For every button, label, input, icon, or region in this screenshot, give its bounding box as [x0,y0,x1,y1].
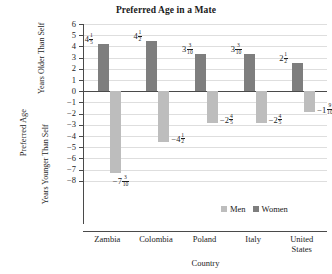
bar-value-label-women: 412 [133,30,141,42]
y-axis-tick [79,114,83,115]
x-axis-category-label: UnitedStates [277,234,326,254]
legend-label: Women [262,204,288,214]
y-axis-tick-label: 2 [52,64,76,73]
bar-value-label-women: 3310 [182,43,193,55]
bar-women [195,54,206,91]
y-axis-tick [79,158,83,159]
fraction-denominator: 2 [138,37,142,43]
bar-value-label-women: 3310 [231,43,242,55]
gridline [84,35,327,36]
y-axis-tick [79,69,83,70]
bar-value-label-men: −245 [220,114,233,126]
value-fraction: 15 [89,33,93,45]
bar-value-label-men: −245 [269,114,282,126]
bar-value-label-men: −1910 [317,103,332,115]
y-axis-tick-label: −7 [52,165,76,174]
chart-legend: MenWomen [221,204,288,214]
y-axis-tick [79,181,83,182]
legend-swatch [221,206,227,212]
y-axis-tick-label: −2 [52,109,76,118]
x-axis-category-label: Colombia [132,234,181,244]
chart-container: Preferred Age in a Mate Preferred Age Ye… [0,0,332,274]
y-axis-tick-label: 1 [52,76,76,85]
y-axis-tick-label: 5 [52,31,76,40]
y-axis-tick [79,80,83,81]
y-axis-tick-label: −3 [52,120,76,129]
bar-men [304,91,315,112]
chart-title: Preferred Age in a Mate [0,5,332,15]
fraction-denominator: 2 [284,59,288,65]
value-fraction: 45 [278,114,282,126]
bar-men [110,91,121,173]
y-axis-tick [79,91,83,92]
fraction-denominator: 10 [235,50,242,56]
legend-label: Men [230,204,246,214]
bar-men [207,91,218,122]
y-axis-tick-label: −4 [52,132,76,141]
fraction-denominator: 5 [89,40,93,46]
y-axis-tick-label: −8 [52,176,76,185]
fraction-denominator: 10 [187,50,194,56]
y-axis-tick [79,24,83,25]
value-whole: −1 [317,106,326,114]
value-whole: −2 [269,116,278,124]
x-axis-category-label: Zambia [83,234,132,244]
legend-item: Men [221,204,246,214]
y-axis-title: Preferred Age [19,83,28,183]
legend-swatch [253,206,259,212]
x-axis-title: Country [84,258,327,268]
bar-women [292,63,303,91]
y-axis-tick-label: −5 [52,143,76,152]
value-fraction: 310 [235,43,242,55]
x-axis-spine [83,231,327,232]
bar-men [158,91,169,141]
y-axis-tick [79,170,83,171]
value-fraction: 12 [138,30,142,42]
category-label-line: United [277,234,326,244]
y-axis-tick [79,46,83,47]
fraction-denominator: 5 [278,120,282,126]
bar-men [256,91,267,122]
value-fraction: 310 [122,175,129,187]
value-fraction: 310 [187,43,194,55]
legend-item: Women [253,204,288,214]
x-axis-category-label: Poland [180,234,229,244]
y-axis-tick [79,136,83,137]
y-axis-lower-label: Years Younger Than Self [42,120,51,208]
x-axis-category-label: Italy [229,234,278,244]
y-axis-lower-label-text: Years Younger Than Self [41,124,50,204]
bar-women [98,44,109,91]
fraction-denominator: 10 [327,110,332,116]
value-whole: −2 [220,116,229,124]
value-fraction: 12 [284,52,288,64]
bar-value-label-women: 415 [85,33,93,45]
y-axis-tick [79,35,83,36]
value-whole: −7 [113,177,122,185]
y-axis-tick-label: 3 [52,53,76,62]
y-axis-tick [79,102,83,103]
y-axis-tick-label: 0 [52,87,76,96]
bar-women [146,41,157,91]
gridline [84,46,327,47]
y-axis-tick-label: −6 [52,154,76,163]
fraction-denominator: 10 [122,182,129,188]
value-fraction: 12 [181,133,185,145]
y-axis-tick-label: −1 [52,98,76,107]
y-axis-tick-label: 4 [52,42,76,51]
bar-value-label-men: −412 [171,133,184,145]
y-axis-tick [79,147,83,148]
fraction-denominator: 5 [229,120,233,126]
y-axis-tick [79,58,83,59]
y-axis-tick [79,125,83,126]
y-axis-tick-label: 6 [52,20,76,29]
gridline [84,24,327,25]
y-axis-upper-label-text: Years Older Than Self [37,23,46,94]
category-label-line: States [277,244,326,254]
y-axis-upper-label: Years Older Than Self [38,22,47,94]
fraction-denominator: 2 [181,139,185,145]
y-axis-spine [83,24,84,224]
value-fraction: 45 [229,114,233,126]
value-fraction: 910 [327,103,332,115]
value-whole: −4 [171,135,180,143]
bar-women [244,54,255,91]
